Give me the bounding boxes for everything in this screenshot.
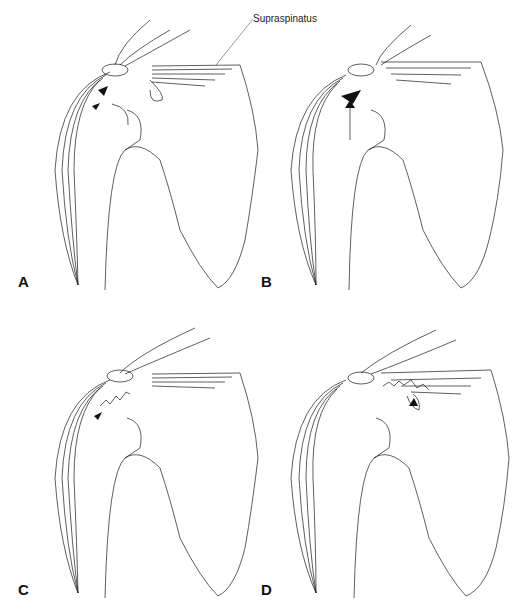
shoulder-diagram-b	[261, 0, 523, 308]
panel-label-d: D	[261, 581, 272, 598]
shoulder-diagram-a	[0, 0, 262, 308]
panel-label-a: A	[18, 273, 29, 290]
panel-label-c: C	[18, 581, 29, 598]
panel-c: C	[0, 308, 262, 616]
shoulder-diagram-c	[0, 308, 262, 616]
panel-b: B	[261, 0, 523, 308]
panel-label-b: B	[261, 273, 272, 290]
panel-d: D	[261, 308, 523, 616]
panel-a: A	[0, 0, 262, 308]
shoulder-diagram-d	[261, 308, 523, 616]
